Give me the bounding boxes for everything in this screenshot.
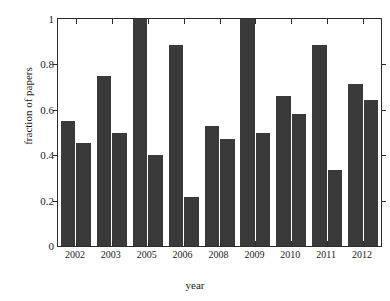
bar-2008-bar-b [220,139,235,246]
x-tick-mark-bottom [184,241,185,246]
x-tick-mark-bottom [363,241,364,246]
bar-2002-bar-b [76,143,91,246]
bar-2009-bar-b [256,133,271,247]
x-tick-mark-top [363,19,364,24]
x-tick-mark-bottom [220,241,221,246]
bar-2005-bar-a [133,19,148,246]
x-tick-label-2005: 2005 [137,249,157,260]
y-axis-title: fraction of papers [22,26,34,186]
bar-2002-bar-a [61,121,76,246]
bar-2011-bar-b [328,170,343,246]
x-tick-mark-bottom [148,241,149,246]
x-tick-mark-top [112,19,113,24]
y-tick-mark-right [381,155,386,156]
y-tick-label: 0.2 [40,195,54,207]
x-tick-label-2002: 2002 [65,249,85,260]
y-tick-label: 1 [49,13,55,25]
bar-2010-bar-a [276,96,291,246]
chart-title [120,0,280,6]
x-tick-mark-top [220,19,221,24]
y-tick-mark-right [381,64,386,65]
x-tick-mark-bottom [327,241,328,246]
x-tick-mark-top [327,19,328,24]
y-tick-label: 0.4 [40,149,54,161]
x-tick-label-2012: 2012 [352,249,372,260]
y-tick-label: 0.8 [40,58,54,70]
x-axis-title: year [0,279,390,291]
x-tick-label-2008: 2008 [209,249,229,260]
x-tick-mark-top [291,19,292,24]
x-tick-label-2010: 2010 [280,249,300,260]
bar-2008-bar-a [205,126,220,246]
y-tick-label: 0 [49,240,55,252]
y-tick-label: 0.6 [40,104,54,116]
bar-2005-bar-b [148,155,163,246]
plot-area [58,19,381,246]
bar-2003-bar-b [112,133,127,247]
x-tick-mark-bottom [76,241,77,246]
bar-2012-bar-b [364,100,379,246]
x-tick-mark-top [76,19,77,24]
bar-2006-bar-b [184,197,199,246]
bar-2012-bar-a [348,84,363,246]
x-tick-mark-top [184,19,185,24]
x-tick-mark-bottom [291,241,292,246]
bar-2003-bar-a [97,76,112,246]
bar-2011-bar-a [312,45,327,246]
x-tick-mark-top [255,19,256,24]
bar-2006-bar-a [169,45,184,246]
x-tick-label-2003: 2003 [101,249,121,260]
y-tick-mark-right [381,201,386,202]
x-tick-mark-bottom [255,241,256,246]
x-tick-label-2009: 2009 [244,249,264,260]
x-tick-label-2011: 2011 [316,249,336,260]
x-tick-mark-bottom [112,241,113,246]
plot-frame: 00.20.40.60.81 [57,18,382,247]
bar-chart: fraction of papers 00.20.40.60.81 year 2… [0,0,390,301]
bar-2009-bar-a [240,19,255,246]
x-tick-label-2006: 2006 [173,249,193,260]
y-tick-mark-right [381,110,386,111]
x-tick-mark-top [148,19,149,24]
bar-2010-bar-b [292,114,307,246]
